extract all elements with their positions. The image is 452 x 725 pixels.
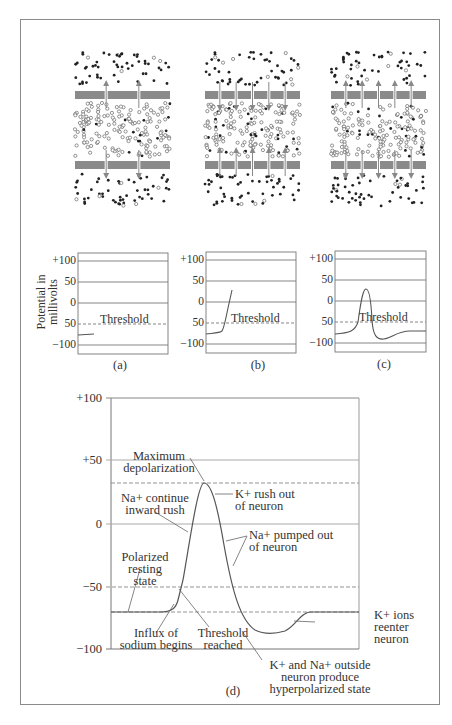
tick: −100: [68, 642, 102, 657]
tick: −100: [174, 337, 204, 349]
tick: 0: [68, 517, 102, 532]
annotation-influx-sodium: Influx of sodium begins: [116, 627, 196, 651]
annotation-threshold-reached: Threshold reached: [195, 627, 251, 651]
annotation-line: of neuron: [249, 541, 333, 553]
tick: −100: [46, 338, 76, 350]
tick: 50: [303, 273, 333, 285]
annotation-line: hyperpolarized state: [265, 683, 375, 695]
annotation-max-depolarization: Maximum depolarization: [117, 450, 201, 474]
tick: −50: [68, 580, 102, 595]
annotation-hyperpolarized: K+ and Na+ outside neuron produce hyperp…: [265, 659, 375, 695]
tick: +100: [68, 391, 102, 406]
tick: 0: [303, 294, 333, 306]
chart-c: [335, 251, 426, 352]
membrane-panel-b: [204, 51, 302, 206]
tick: +100: [46, 254, 76, 266]
caption-c: (c): [364, 357, 404, 372]
tick: 50: [46, 275, 76, 287]
tick: +50: [68, 453, 102, 468]
tick: 50: [46, 317, 76, 329]
annotation-polarized-resting: Polarized resting state: [117, 551, 173, 587]
threshold-label-b: Threshold: [231, 312, 280, 324]
membrane-panel-c: [330, 51, 428, 208]
tick: +100: [174, 253, 204, 265]
tick: +100: [303, 252, 333, 264]
annotation-na-pumped-out: Na+ pumped out of neuron: [249, 529, 333, 553]
tick: 0: [174, 295, 204, 307]
membrane-panels: [73, 51, 427, 208]
caption-d: (d): [213, 684, 253, 699]
chart-b: [206, 252, 296, 353]
annotation-line: neuron: [374, 633, 414, 645]
annotation-na-continue: Na+ continue inward rush: [115, 492, 195, 516]
annotation-line: inward rush: [115, 504, 195, 516]
threshold-label-a: Threshold: [100, 313, 149, 325]
tick: 50: [303, 315, 333, 327]
annotation-k-rush-out: K+ rush out of neuron: [235, 488, 295, 512]
tick: 50: [174, 274, 204, 286]
annotation-line: state: [117, 575, 173, 587]
tick: 0: [46, 296, 76, 308]
annotation-line: sodium begins: [116, 639, 196, 651]
caption-b: (b): [238, 358, 278, 373]
threshold-label-c: Threshold: [359, 311, 408, 323]
tick: −100: [303, 336, 333, 348]
annotation-line: reached: [195, 639, 251, 651]
annotation-line: depolarization: [117, 462, 201, 474]
membrane-panel-a: [73, 51, 171, 207]
annotation-k-reenter: K+ ions reenter neuron: [374, 609, 414, 645]
chart-a: [78, 253, 168, 354]
caption-a: (a): [100, 358, 140, 373]
annotation-line: of neuron: [235, 500, 295, 512]
tick: 50: [174, 316, 204, 328]
